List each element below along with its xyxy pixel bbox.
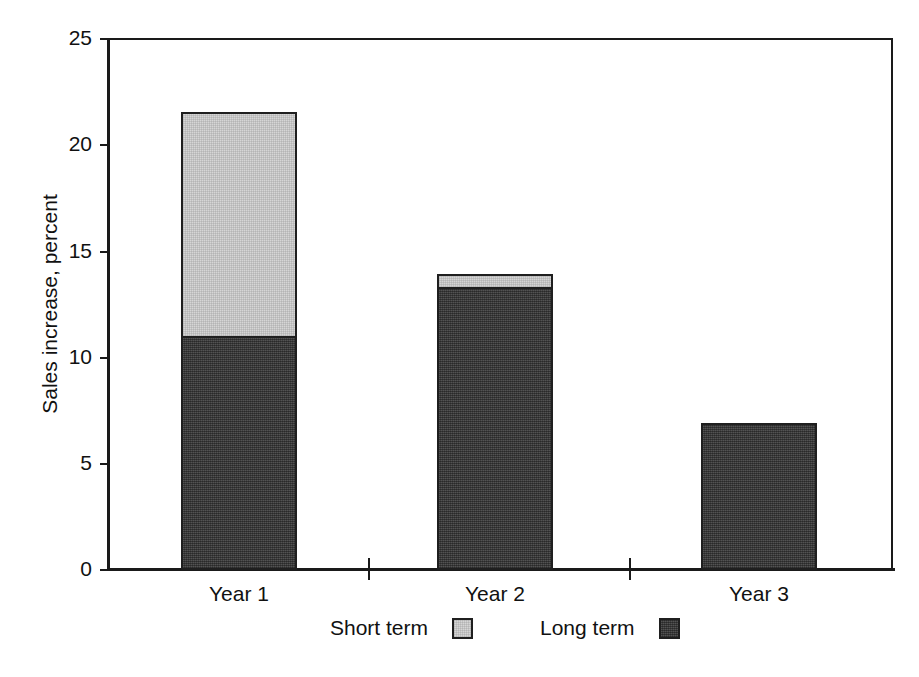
bar-year2-long-term — [437, 287, 553, 570]
y-tick-mark-15 — [100, 251, 109, 253]
y-tick-mark-25 — [100, 38, 109, 40]
legend-label-long-term: Long term — [540, 616, 635, 640]
y-tick-label-wrap-0: 0 — [0, 558, 92, 579]
x-tick-mark-1 — [368, 558, 370, 580]
y-tick-label-10: 10 — [8, 346, 92, 367]
x-axis-label-year-2: Year 2 — [395, 582, 595, 606]
y-tick-mark-5 — [100, 463, 109, 465]
legend-entry-long-term: Long term — [540, 612, 680, 644]
bar-year1-long-term — [181, 336, 297, 570]
y-tick-label-wrap-20: 20 — [0, 133, 92, 154]
legend-swatch-short-term — [452, 618, 473, 639]
legend-entry-short-term: Short term — [330, 612, 473, 644]
x-axis-label-year-3: Year 3 — [659, 582, 859, 606]
y-tick-mark-0 — [100, 569, 109, 571]
y-tick-label-5: 5 — [8, 452, 92, 473]
y-tick-label-20: 20 — [8, 133, 92, 154]
y-tick-mark-20 — [100, 144, 109, 146]
legend-label-short-term: Short term — [330, 616, 428, 640]
y-axis-line — [107, 38, 109, 570]
y-tick-label-wrap-15: 15 — [0, 240, 92, 261]
legend-swatch-long-term — [659, 618, 680, 639]
bar-year1-short-term — [181, 112, 297, 337]
y-tick-label-0: 0 — [8, 558, 92, 579]
x-tick-mark-2 — [629, 558, 631, 580]
stacked-bar-chart: Sales increase, percent 25 20 15 10 5 0 … — [0, 0, 919, 677]
y-tick-label-wrap-10: 10 — [0, 346, 92, 367]
y-tick-mark-10 — [100, 357, 109, 359]
y-tick-label-15: 15 — [8, 240, 92, 261]
chart-legend: Short term Long term — [300, 612, 700, 644]
x-axis-label-year-1: Year 1 — [139, 582, 339, 606]
y-tick-label-25: 25 — [8, 27, 92, 48]
y-tick-label-wrap-25: 25 — [0, 27, 92, 48]
bar-year3-long-term — [701, 423, 817, 570]
y-tick-label-wrap-5: 5 — [0, 452, 92, 473]
